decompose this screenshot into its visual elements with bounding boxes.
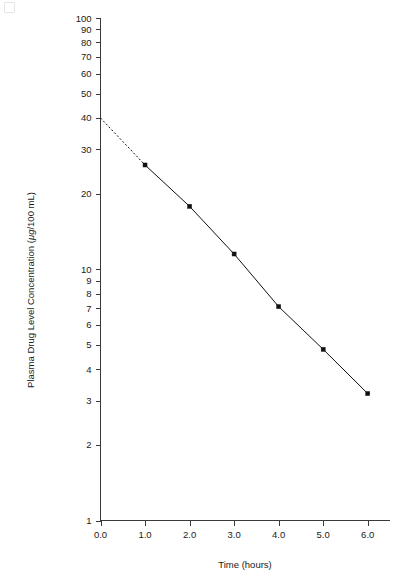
x-axis-title: Time (hours): [218, 559, 272, 570]
x-tick-label: 5.0: [317, 529, 330, 540]
y-tick-label: 20: [81, 188, 92, 199]
data-point-marker: [143, 163, 147, 167]
data-markers: [143, 163, 370, 396]
x-tick-label: 4.0: [272, 529, 285, 540]
y-tick-label: 80: [81, 37, 92, 48]
y-tick-label: 100: [76, 13, 92, 24]
y-axis-title: Plasma Drug Level Concentration (μg/100 …: [25, 192, 36, 388]
x-tick-label: 2.0: [183, 529, 196, 540]
x-tick-label: 0.0: [94, 529, 107, 540]
data-point-marker: [188, 204, 192, 208]
y-tick-label: 2: [86, 439, 91, 450]
semilog-plot: 123456789102030405060708090100 0.01.02.0…: [0, 0, 403, 588]
x-axis-ticks: 0.01.02.03.04.05.06.0: [94, 521, 374, 540]
data-line: [145, 165, 368, 394]
y-tick-label: 8: [86, 288, 91, 299]
data-point-marker: [277, 305, 281, 309]
y-tick-label: 5: [86, 339, 91, 350]
y-tick-label: 90: [81, 24, 92, 35]
y-tick-label: 4: [86, 364, 91, 375]
data-point-marker: [321, 347, 325, 351]
y-tick-label: 9: [86, 275, 91, 286]
y-tick-label: 60: [81, 68, 92, 79]
x-tick-label: 3.0: [228, 529, 241, 540]
data-point-marker: [232, 252, 236, 256]
y-tick-label: 7: [86, 303, 91, 314]
y-tick-label: 10: [81, 264, 92, 275]
chart-figure: 123456789102030405060708090100 0.01.02.0…: [0, 0, 403, 588]
data-point-marker: [366, 392, 370, 396]
x-tick-label: 6.0: [361, 529, 374, 540]
y-tick-label: 3: [86, 395, 91, 406]
y-tick-label: 40: [81, 112, 92, 123]
extrapolation-line: [101, 118, 146, 165]
y-tick-label: 50: [81, 88, 92, 99]
corner-artifact: [4, 2, 15, 13]
y-tick-label: 6: [86, 319, 91, 330]
y-tick-label: 70: [81, 51, 92, 62]
y-tick-label: 30: [81, 144, 92, 155]
x-tick-label: 1.0: [138, 529, 151, 540]
y-axis-ticks: 123456789102030405060708090100: [76, 13, 101, 527]
y-tick-label: 1: [86, 515, 91, 526]
